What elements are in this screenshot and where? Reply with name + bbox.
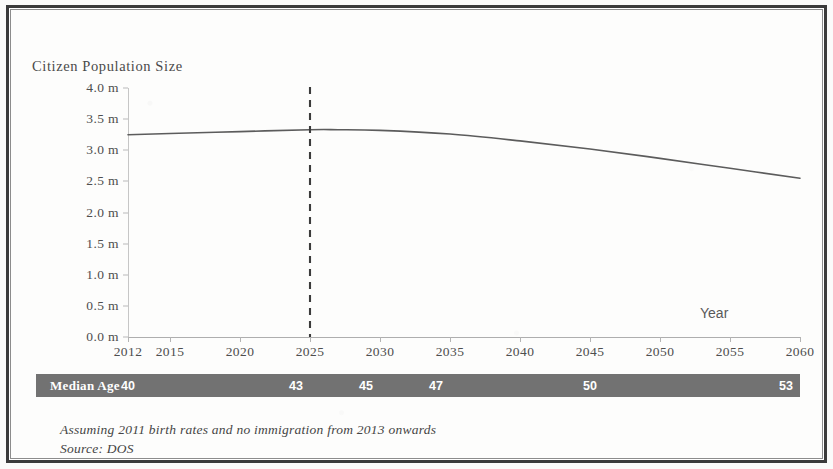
x-tick-label: 2050 bbox=[646, 344, 675, 360]
median-age-value: 50 bbox=[583, 379, 597, 393]
citizen-population-line bbox=[128, 130, 800, 179]
y-tick-label: 2.0 m bbox=[86, 205, 119, 221]
y-tick-label: 0.5 m bbox=[86, 298, 119, 314]
y-tick-label: 1.0 m bbox=[86, 267, 119, 283]
x-tick-mark bbox=[590, 337, 591, 342]
footnote-assumption: Assuming 2011 birth rates and no immigra… bbox=[60, 420, 436, 439]
chart-plot-area: 0.0 m0.5 m1.0 m1.5 m2.0 m2.5 m3.0 m3.5 m… bbox=[128, 88, 800, 337]
median-age-value: 47 bbox=[429, 379, 443, 393]
y-tick-label: 0.0 m bbox=[86, 329, 119, 345]
median-age-value: 43 bbox=[289, 379, 303, 393]
x-tick-mark bbox=[128, 337, 129, 342]
x-tick-mark bbox=[450, 337, 451, 342]
x-tick-label: 2040 bbox=[506, 344, 535, 360]
median-age-band: Median Age 404345475053 bbox=[36, 374, 800, 397]
x-tick-label: 2055 bbox=[716, 344, 745, 360]
population-projection-figure: Citizen Population Size 0.0 m0.5 m1.0 m1… bbox=[0, 0, 833, 469]
y-tick-label: 2.5 m bbox=[86, 173, 119, 189]
x-tick-mark bbox=[310, 337, 311, 342]
x-tick-label: 2025 bbox=[296, 344, 325, 360]
x-tick-mark bbox=[380, 337, 381, 342]
median-age-value: 40 bbox=[121, 379, 135, 393]
x-tick-label: 2060 bbox=[786, 344, 815, 360]
median-age-value: 45 bbox=[359, 379, 373, 393]
x-tick-mark bbox=[800, 337, 801, 342]
x-tick-label: 2020 bbox=[226, 344, 255, 360]
x-tick-mark bbox=[730, 337, 731, 342]
x-tick-mark bbox=[520, 337, 521, 342]
y-tick-label: 3.5 m bbox=[86, 111, 119, 127]
population-line-series bbox=[128, 88, 800, 337]
x-tick-mark bbox=[660, 337, 661, 342]
y-tick-label: 1.5 m bbox=[86, 236, 119, 252]
x-tick-label: 2015 bbox=[156, 344, 185, 360]
footnotes: Assuming 2011 birth rates and no immigra… bbox=[60, 420, 436, 458]
x-tick-label: 2012 bbox=[114, 344, 143, 360]
x-axis-title: Year bbox=[700, 305, 728, 321]
x-tick-label: 2045 bbox=[576, 344, 605, 360]
y-tick-label: 4.0 m bbox=[86, 80, 119, 96]
median-age-value: 53 bbox=[779, 379, 793, 393]
x-tick-mark bbox=[240, 337, 241, 342]
y-tick-label: 3.0 m bbox=[86, 142, 119, 158]
median-age-band-label: Median Age bbox=[50, 378, 120, 394]
footnote-source: Source: DOS bbox=[60, 439, 436, 458]
x-tick-label: 2035 bbox=[436, 344, 465, 360]
x-tick-mark bbox=[170, 337, 171, 342]
x-tick-label: 2030 bbox=[366, 344, 395, 360]
x-axis-line bbox=[128, 337, 800, 338]
y-axis-title: Citizen Population Size bbox=[32, 58, 183, 75]
